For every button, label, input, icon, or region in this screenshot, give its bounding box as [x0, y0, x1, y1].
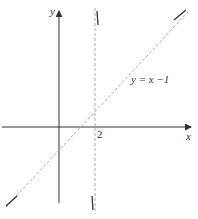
x-tick-label-2: 2	[97, 128, 103, 140]
oblique-asymptote-label: y = x −1	[130, 73, 169, 85]
graph-canvas: y x 2 y = x −1	[0, 0, 198, 219]
curve-branch-top-right	[174, 10, 186, 20]
x-axis-label: x	[185, 130, 191, 142]
oblique-asymptote	[6, 12, 188, 207]
curve-branch-near-vertical-top	[97, 11, 98, 25]
y-axis-label: y	[49, 5, 55, 17]
curve-branch-near-vertical-bottom	[92, 196, 93, 210]
curve-branch-bottom-left	[6, 196, 17, 206]
